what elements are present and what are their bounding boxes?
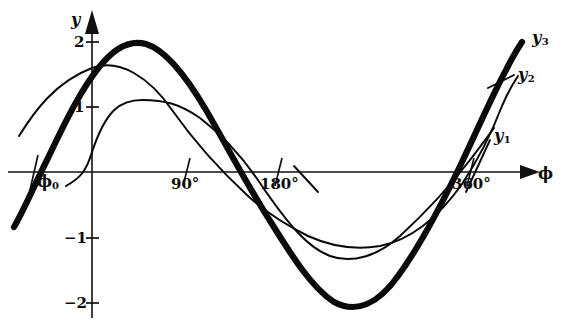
y-tick-label-2: 2	[74, 35, 84, 50]
series-label-y1-text: y	[494, 126, 503, 145]
graph-canvas	[0, 0, 574, 330]
series-label-y1-subscript: 1	[503, 134, 510, 145]
series-label-y2-subscript: 2	[527, 73, 534, 84]
x-tick-label-90: 90°	[171, 177, 199, 192]
series-label-y2-text: y	[518, 65, 527, 84]
x-axis-arrowhead	[520, 165, 540, 179]
series-label-y1: y1	[494, 128, 511, 145]
y-tick-label-neg-2: −2	[64, 296, 87, 311]
series-label-y3-subscript: 3	[541, 36, 548, 47]
phi-zero-label: ϕ0	[37, 174, 59, 191]
y-tick-label-neg-1: −1	[64, 231, 87, 246]
x-tick-label-180: 180°	[260, 177, 299, 192]
y-axis-label: y	[71, 12, 80, 28]
y-tick-label-1: 1	[74, 100, 84, 115]
x-axis-label: ϕ	[538, 166, 553, 182]
series-label-y2: y2	[518, 67, 535, 84]
series-label-y3: y3	[532, 30, 549, 47]
x-tick-label-360: 360°	[452, 177, 491, 192]
phi-zero-subscript: 0	[52, 180, 59, 191]
series-label-y3-text: y	[532, 28, 541, 47]
phi-zero-glyph: ϕ	[37, 172, 52, 191]
y-axis-arrowhead	[85, 10, 99, 34]
sinusoid-figure: y ϕ ϕ0 2 1 −1 −2 90° 180° 360° y1 y2 y3	[0, 0, 574, 330]
